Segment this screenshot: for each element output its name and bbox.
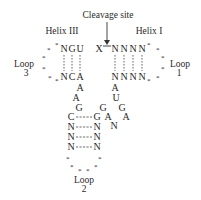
helix-i-top-nt: N xyxy=(120,43,127,54)
cleavage-site-label: Cleavage site xyxy=(83,10,134,20)
loop-3-asterisk: * xyxy=(55,41,59,49)
helix-iii-top-nt: N xyxy=(60,43,67,54)
helix-i-top-nt: N xyxy=(138,43,145,54)
diagram-canvas: Cleavage site Helix III Helix I * * N G … xyxy=(0,0,201,200)
helix-i-bottom-nt: N xyxy=(111,71,118,82)
helix-ii-right-nt: N xyxy=(93,141,100,152)
right-strand-nt: A xyxy=(122,111,130,122)
loop-2-asterisk: * xyxy=(70,163,74,171)
cleavage-nucleotide: X xyxy=(95,43,103,54)
helix-iii-label: Helix III xyxy=(46,26,79,36)
helix-iii-bottom-nt: A xyxy=(76,71,84,82)
loop-3-asterisk: * xyxy=(48,74,52,82)
helix-iii-top-nt: U xyxy=(76,43,84,54)
loop-3-asterisk: * xyxy=(47,46,51,54)
cleavage-arrow-head-icon xyxy=(104,40,110,45)
loop-2-asterisk: * xyxy=(94,163,98,171)
right-strand-nt: N xyxy=(110,120,117,131)
loop-2-asterisk: * xyxy=(66,155,70,163)
loop-1-asterisk: * xyxy=(161,65,165,73)
helix-i-top-nt: N xyxy=(129,43,136,54)
loop-1-number: 1 xyxy=(177,68,182,78)
helix-i-top-nt: N xyxy=(111,43,118,54)
helix-ii-left-nt: N xyxy=(67,141,74,152)
loop-1-asterisk: * xyxy=(147,77,151,85)
loop-2-asterisk: * xyxy=(86,167,90,175)
loop-3-asterisk: * xyxy=(55,77,59,85)
hammerhead-ribozyme-diagram: Cleavage site Helix III Helix I * * N G … xyxy=(0,0,201,200)
helix-iii-bottom-nt: C xyxy=(69,71,76,82)
helix-i-bottom-nt: N xyxy=(138,71,145,82)
helix-i-bottom-nt: N xyxy=(129,71,136,82)
loop-1-asterisk: * xyxy=(147,41,151,49)
loop-3-number: 3 xyxy=(24,68,29,78)
loop-1-asterisk: * xyxy=(156,46,160,54)
left-strand-nt: G xyxy=(75,102,82,113)
loop-2-number: 2 xyxy=(82,184,87,194)
helix-i-label: Helix I xyxy=(136,26,163,36)
loop-3-asterisk: * xyxy=(42,65,46,73)
loop-3-asterisk: * xyxy=(42,54,46,62)
loop-1-asterisk: * xyxy=(156,74,160,82)
loop-1-asterisk: * xyxy=(161,54,165,62)
helix-i-bottom-nt: N xyxy=(120,71,127,82)
loop-2-asterisk: * xyxy=(78,167,82,175)
helix-iii-top-nt: G xyxy=(68,43,75,54)
loop-2-asterisk: * xyxy=(98,155,102,163)
helix-iii-bottom-nt: N xyxy=(60,71,67,82)
